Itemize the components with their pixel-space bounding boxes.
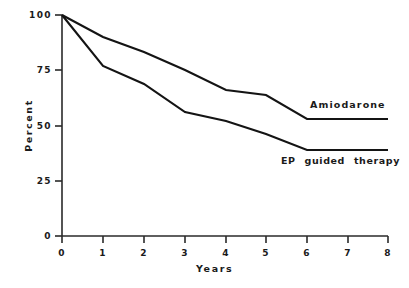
x-tick-label-7: 7 — [334, 248, 362, 258]
x-axis-ticks — [62, 236, 388, 243]
y-axis-title: Percent — [23, 91, 34, 161]
y-tick-label-0: 0 — [12, 231, 52, 241]
x-axis-title: Years — [196, 263, 233, 274]
x-tick-label-6: 6 — [293, 248, 321, 258]
series-line-ep-guided-therapy — [62, 15, 388, 150]
series-label-amiodarone: Amiodarone — [310, 99, 386, 110]
x-tick-label-2: 2 — [130, 248, 158, 258]
x-tick-label-5: 5 — [252, 248, 280, 258]
y-axis-ticks — [55, 15, 62, 236]
line-chart-plot — [0, 0, 409, 288]
y-tick-label-75: 75 — [12, 65, 52, 75]
chart-figure: 100 75 50 25 0 Percent 0 1 2 3 4 5 6 7 8… — [0, 0, 409, 288]
x-tick-label-3: 3 — [171, 248, 199, 258]
x-tick-label-8: 8 — [374, 248, 402, 258]
series-label-ep-guided-therapy: EP guided therapy — [281, 155, 400, 166]
y-tick-label-25: 25 — [12, 176, 52, 186]
x-tick-label-4: 4 — [212, 248, 240, 258]
y-tick-label-100: 100 — [12, 10, 52, 20]
x-tick-label-0: 0 — [48, 248, 76, 258]
x-tick-label-1: 1 — [89, 248, 117, 258]
